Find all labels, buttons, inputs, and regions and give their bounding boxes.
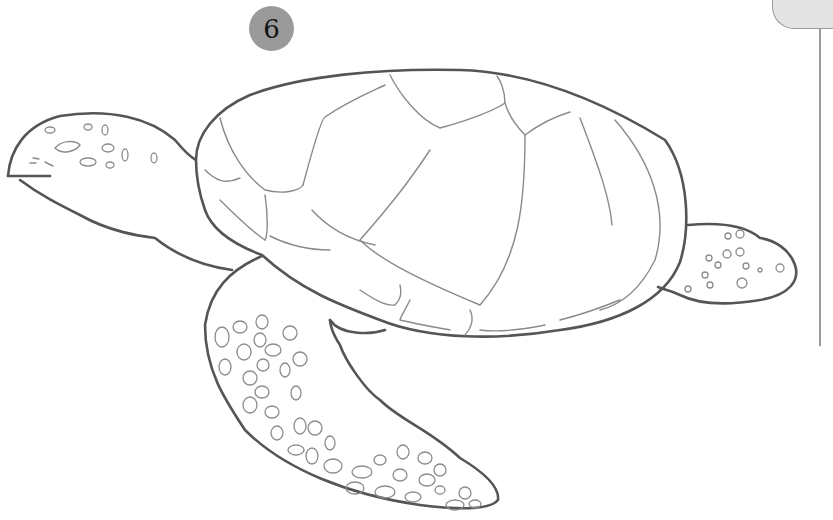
flipper-spots xyxy=(215,315,481,510)
turtle-shell xyxy=(196,70,686,337)
